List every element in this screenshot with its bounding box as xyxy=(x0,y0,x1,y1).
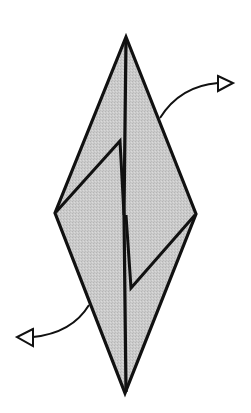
arrowhead-icon xyxy=(218,76,233,91)
arrow-shaft xyxy=(33,305,89,337)
upper-right-arrow xyxy=(160,76,233,118)
lower-left-arrow xyxy=(17,305,89,346)
arrowhead-icon xyxy=(17,329,33,346)
origami-diagram xyxy=(0,0,251,413)
arrow-shaft xyxy=(160,83,218,118)
